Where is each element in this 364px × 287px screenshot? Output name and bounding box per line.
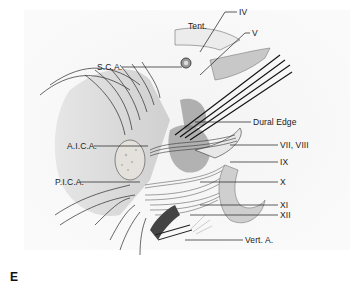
label-dural-edge: Dural Edge [253,118,297,127]
illustration-drawing [0,0,364,287]
label-x: X [280,178,286,187]
label-v: V [252,29,258,38]
label-tent: Tent. [188,22,207,31]
label-xi: XI [280,201,288,210]
label-aica: A.I.C.A. [67,142,97,151]
panel-letter: E [10,270,18,284]
label-pica: P.I.C.A. [55,178,84,187]
label-vert-a: Vert. A. [245,236,273,245]
label-sca: S.C.A. [97,63,122,72]
label-ix: IX [280,158,288,167]
label-iv: IV [239,8,247,17]
anatomical-illustration: Tent. IV V S.C.A. Dural Edge A.I.C.A. VI… [0,0,364,287]
label-xii: XII [280,211,291,220]
label-vii-viii: VII, VIII [280,141,309,150]
